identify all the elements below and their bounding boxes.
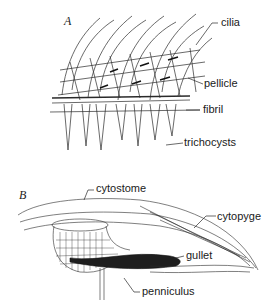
label-cytostome: cytostome <box>96 183 146 194</box>
label-pellicle: pellicle <box>204 78 238 89</box>
paramecium-structure-figure: A B cilia pellicle fibril trichocysts cy… <box>0 0 272 304</box>
label-trichocysts: trichocysts <box>184 137 236 148</box>
panel-a-drawing <box>50 14 212 150</box>
label-penniculus: penniculus <box>142 286 195 297</box>
label-fibril: fibril <box>203 104 223 115</box>
label-gullet: gullet <box>186 250 212 261</box>
panel-a-letter: A <box>64 14 71 29</box>
label-cilia: cilia <box>221 17 240 28</box>
label-cytopyge: cytopyge <box>217 211 261 222</box>
illustration <box>0 0 272 304</box>
panel-b-letter: B <box>19 188 26 203</box>
